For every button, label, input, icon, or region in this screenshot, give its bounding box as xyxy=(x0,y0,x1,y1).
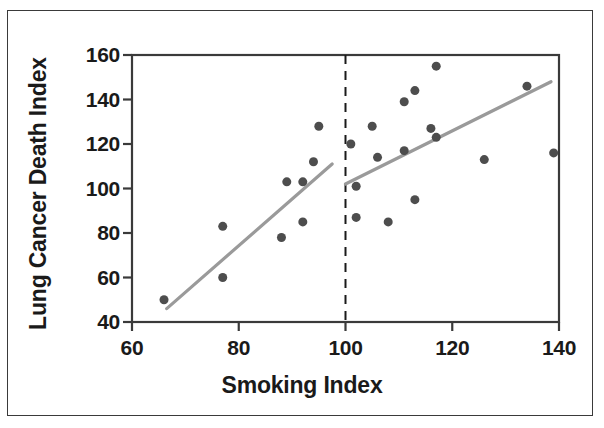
data-point xyxy=(368,122,377,131)
data-point xyxy=(410,86,419,95)
y-axis-tick-label: 140 xyxy=(40,88,120,112)
y-axis-tick-label: 40 xyxy=(40,310,120,334)
data-point xyxy=(298,177,307,186)
data-point xyxy=(352,182,361,191)
data-point xyxy=(346,140,355,149)
x-axis-title: Smoking Index xyxy=(0,372,604,399)
data-point xyxy=(432,133,441,142)
y-axis-tick-label: 80 xyxy=(40,221,120,245)
data-point xyxy=(549,148,558,157)
x-axis-tick-label: 120 xyxy=(435,336,469,360)
y-axis-tick-label: 120 xyxy=(40,132,120,156)
trend-line-right-segment xyxy=(346,82,551,184)
trend-line-left-segment xyxy=(167,164,332,309)
data-point xyxy=(400,146,409,155)
x-axis-tick-label: 60 xyxy=(121,336,144,360)
data-point xyxy=(410,195,419,204)
y-axis-tick-label: 160 xyxy=(40,43,120,67)
data-point xyxy=(218,222,227,231)
data-point xyxy=(400,97,409,106)
x-axis-tick-label: 100 xyxy=(328,336,362,360)
figure-container: Lung Cancer Death Index Smoking Index 40… xyxy=(0,0,604,428)
data-point xyxy=(384,217,393,226)
x-axis-tick-label: 140 xyxy=(542,336,576,360)
data-point xyxy=(277,233,286,242)
data-point xyxy=(309,157,318,166)
data-point xyxy=(160,295,169,304)
y-axis-tick-label: 60 xyxy=(40,266,120,290)
data-point xyxy=(522,82,531,91)
data-point xyxy=(314,122,323,131)
data-point xyxy=(480,155,489,164)
data-point xyxy=(298,217,307,226)
data-point xyxy=(352,213,361,222)
data-point xyxy=(218,273,227,282)
data-point xyxy=(373,153,382,162)
y-axis-tick-label: 100 xyxy=(40,177,120,201)
data-point xyxy=(282,177,291,186)
data-point xyxy=(426,124,435,133)
x-axis-tick-label: 80 xyxy=(227,336,250,360)
data-point xyxy=(432,62,441,71)
